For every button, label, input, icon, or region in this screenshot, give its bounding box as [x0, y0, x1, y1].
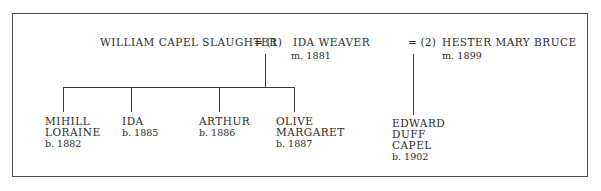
child-birth-date: b. 1886: [199, 127, 250, 138]
spouse-2-name: HESTER MARY BRUCE: [442, 37, 577, 48]
child-name-line: CAPEL: [392, 140, 445, 151]
child-name-line: MARGARET: [276, 127, 345, 138]
child-4-drop-line: [294, 87, 295, 112]
child-birth-date: b. 1887: [276, 138, 345, 149]
child-olive-margaret: OLIVE MARGARET b. 1887: [276, 116, 345, 149]
child-birth-date: b. 1882: [45, 138, 101, 149]
spouse-1-name: IDA WEAVER: [293, 37, 370, 48]
child-3-drop-line: [219, 87, 220, 112]
child-name-line: LORAINE: [45, 127, 101, 138]
marriage-1-descent-line: [265, 54, 266, 87]
child-name-line: ARTHUR: [199, 116, 250, 127]
father-name: WILLIAM CAPEL SLAUGHTER: [100, 37, 278, 48]
child-edward-duff-capel: EDWARD DUFF CAPEL b. 1902: [392, 118, 445, 162]
child-birth-date: b. 1885: [122, 127, 158, 138]
marriage-2-date: m. 1899: [442, 50, 482, 61]
marriage-1-marker: = (1): [254, 37, 282, 48]
child-arthur: ARTHUR b. 1886: [199, 116, 250, 138]
child-1-drop-line: [63, 87, 64, 112]
child-ida: IDA b. 1885: [122, 116, 158, 138]
child-birth-date: b. 1902: [392, 151, 445, 162]
marriage-2-descent-line: [413, 54, 414, 115]
siblings-bar: [63, 87, 295, 88]
marriage-2-marker: = (2): [408, 37, 436, 48]
child-2-drop-line: [131, 87, 132, 112]
marriage-1-date: m. 1881: [291, 50, 331, 61]
child-name-line: IDA: [122, 116, 158, 127]
child-mihill-loraine: MIHILL LORAINE b. 1882: [45, 116, 101, 149]
